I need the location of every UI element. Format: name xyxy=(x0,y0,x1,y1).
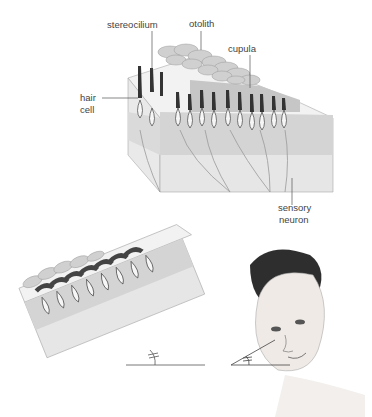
tilted-head xyxy=(250,249,365,417)
label-cupula: cupula xyxy=(228,43,256,54)
label-sensory-neuron-1: sensory xyxy=(278,202,311,213)
diagram-canvas xyxy=(0,0,372,417)
label-otolith: otolith xyxy=(189,18,214,29)
label-hair-cell-2: cell xyxy=(80,104,94,115)
label-hair-cell-1: hair xyxy=(80,92,96,103)
tilted-tissue-block xyxy=(16,213,214,357)
top-tissue-block xyxy=(102,31,333,205)
label-sensory-neuron-2: neuron xyxy=(279,214,309,225)
label-stereocilium: stereocilium xyxy=(107,19,158,30)
angle-marker-left xyxy=(126,350,205,365)
